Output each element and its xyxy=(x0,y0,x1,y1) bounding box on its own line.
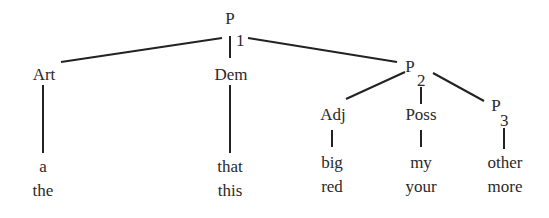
edge-p2-adj xyxy=(346,72,405,99)
node-dem: Dem xyxy=(214,66,247,83)
node-p3-subscript: 3 xyxy=(500,112,509,129)
word: a xyxy=(33,155,54,179)
adj-words: big red xyxy=(321,151,343,199)
p3-words: other more xyxy=(488,151,523,199)
word: red xyxy=(321,175,343,199)
node-poss: Poss xyxy=(405,106,436,123)
node-p1-symbol: P xyxy=(225,10,234,27)
word: the xyxy=(33,179,54,203)
edge-p1-p2 xyxy=(248,38,397,62)
dem-words: that this xyxy=(217,155,243,203)
edge-p1-art xyxy=(61,38,222,62)
edge-p2-p3 xyxy=(433,73,484,101)
word: more xyxy=(488,175,523,199)
word: your xyxy=(405,175,436,199)
word: this xyxy=(217,179,243,203)
node-adj: Adj xyxy=(320,106,346,123)
art-words: a the xyxy=(33,155,54,203)
word: other xyxy=(488,151,523,175)
node-p2-symbol: P xyxy=(405,58,414,75)
node-art: Art xyxy=(33,66,56,83)
word: my xyxy=(405,151,436,175)
node-p2-subscript: 2 xyxy=(417,72,426,89)
node-p1-subscript: 1 xyxy=(236,32,245,49)
word: that xyxy=(217,155,243,179)
poss-words: my your xyxy=(405,151,436,199)
word: big xyxy=(321,151,343,175)
tree-edges xyxy=(0,0,549,218)
